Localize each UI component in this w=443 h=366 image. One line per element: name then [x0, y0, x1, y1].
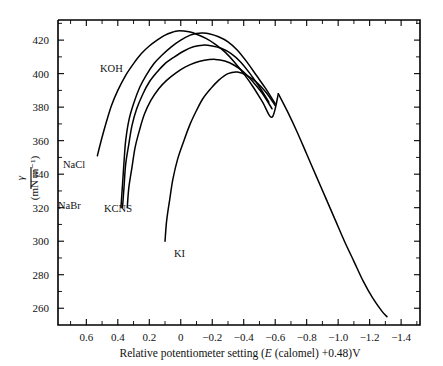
x-tick-label: −0.6 [265, 331, 285, 343]
x-tick-label: −1.2 [360, 331, 380, 343]
x-tick-label: 0.2 [142, 331, 156, 343]
curve-label-koh: KOH [100, 63, 123, 74]
x-tick-label: −1.0 [328, 331, 348, 343]
electrocapillary-chart: 0.60.40.20−0.2−0.4−0.6−0.8−1.0−1.2−1.4 2… [0, 0, 443, 366]
x-axis-title: Relative potentiometer setting (E (calom… [120, 347, 362, 360]
y-tick-label: 260 [33, 302, 50, 314]
curve-label-ki: KI [174, 248, 186, 259]
y-axis-numerator: γ [14, 175, 26, 180]
figure-container: 0.60.40.20−0.2−0.4−0.6−0.8−1.0−1.2−1.4 2… [0, 0, 443, 366]
x-axis-title-symbol: E [264, 347, 272, 359]
y-tick-label: 280 [33, 269, 50, 281]
curve-label-kcns: KCNS [104, 203, 132, 214]
y-tick-label: 420 [33, 34, 50, 46]
x-axis-title-lead: Relative potentiometer setting ( [120, 347, 265, 360]
curve-label-nabr: NaBr [58, 200, 81, 211]
x-tick-label: −1.4 [391, 331, 411, 343]
chart-background [0, 0, 443, 366]
curve-label-nacl: NaCl [63, 159, 85, 170]
y-tick-label: 320 [33, 202, 50, 214]
y-tick-label: 380 [33, 101, 50, 113]
y-axis-denominator: (mN m⁻¹) [28, 155, 41, 200]
y-tick-label: 300 [33, 235, 50, 247]
x-tick-label: −0.8 [297, 331, 317, 343]
x-axis-title-tail: (calomel) +0.48)V [272, 347, 361, 360]
y-tick-label: 400 [33, 68, 50, 80]
x-tick-label: 0.6 [79, 331, 93, 343]
y-tick-label: 360 [33, 135, 50, 147]
x-tick-label: 0 [178, 331, 184, 343]
x-tick-label: −0.2 [202, 331, 222, 343]
x-tick-label: −0.4 [234, 331, 254, 343]
x-tick-label: 0.4 [111, 331, 125, 343]
